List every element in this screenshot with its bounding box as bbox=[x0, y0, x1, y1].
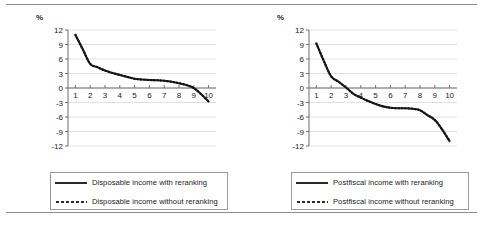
y-axis-unit-label-left: % bbox=[36, 14, 43, 22]
svg-text:3: 3 bbox=[59, 70, 64, 79]
svg-text:3: 3 bbox=[300, 70, 305, 79]
svg-text:5: 5 bbox=[373, 91, 378, 100]
svg-text:9: 9 bbox=[192, 91, 197, 100]
svg-text:7: 7 bbox=[162, 91, 167, 100]
svg-text:5: 5 bbox=[132, 91, 137, 100]
y-axis-unit-label-right: % bbox=[277, 14, 284, 22]
legend-swatch-dotted-icon bbox=[55, 197, 87, 207]
svg-text:6: 6 bbox=[300, 55, 305, 64]
legend-swatch-dotted-icon bbox=[296, 197, 328, 207]
svg-text:-12: -12 bbox=[292, 142, 304, 150]
svg-text:-6: -6 bbox=[56, 113, 64, 122]
legend-label: Disposable income with reranking bbox=[92, 178, 207, 187]
chart-panel-postfiscal-income: % 129630-3-6-9-1212345678910 Postfiscal … bbox=[247, 12, 483, 208]
legend-label: Postfiscal income with reranking bbox=[333, 178, 443, 187]
svg-text:9: 9 bbox=[300, 41, 305, 50]
svg-text:-12: -12 bbox=[51, 142, 63, 150]
line-chart-left: 129630-3-6-9-1212345678910 bbox=[48, 26, 224, 150]
legend-swatch-solid-icon bbox=[55, 178, 87, 188]
svg-text:8: 8 bbox=[418, 91, 423, 100]
svg-text:-3: -3 bbox=[297, 99, 305, 108]
svg-text:1: 1 bbox=[314, 91, 319, 100]
svg-text:8: 8 bbox=[177, 91, 182, 100]
svg-text:9: 9 bbox=[433, 91, 438, 100]
svg-text:4: 4 bbox=[118, 91, 123, 100]
legend-item: Postfiscal income without reranking bbox=[292, 192, 468, 211]
svg-text:-6: -6 bbox=[297, 113, 305, 122]
chart-panel-disposable-income: % 129630-3-6-9-1212345678910 Disposable … bbox=[6, 12, 242, 208]
svg-text:6: 6 bbox=[147, 91, 152, 100]
legend-label: Disposable income without reranking bbox=[92, 197, 218, 206]
top-horizontal-rule bbox=[6, 4, 477, 5]
plot-area-right: 129630-3-6-9-1212345678910 bbox=[289, 26, 465, 150]
svg-text:0: 0 bbox=[300, 84, 305, 93]
line-chart-right: 129630-3-6-9-1212345678910 bbox=[289, 26, 465, 150]
svg-text:2: 2 bbox=[329, 91, 334, 100]
svg-text:0: 0 bbox=[59, 84, 64, 93]
svg-text:-9: -9 bbox=[297, 128, 305, 137]
legend-swatch-solid-icon bbox=[296, 178, 328, 188]
legend-item: Postfiscal income with reranking bbox=[292, 173, 468, 192]
svg-text:6: 6 bbox=[59, 55, 64, 64]
svg-text:12: 12 bbox=[295, 26, 304, 35]
svg-text:3: 3 bbox=[103, 91, 108, 100]
legend-label: Postfiscal income without reranking bbox=[333, 197, 454, 206]
svg-text:-3: -3 bbox=[56, 99, 64, 108]
legend-item: Disposable income with reranking bbox=[51, 173, 227, 192]
svg-text:12: 12 bbox=[54, 26, 63, 35]
legend-item: Disposable income without reranking bbox=[51, 192, 227, 211]
svg-text:3: 3 bbox=[344, 91, 349, 100]
svg-text:7: 7 bbox=[403, 91, 408, 100]
legend-left: Disposable income with reranking Disposa… bbox=[50, 172, 228, 210]
plot-area-left: 129630-3-6-9-1212345678910 bbox=[48, 26, 224, 150]
svg-text:-9: -9 bbox=[56, 128, 64, 137]
svg-text:10: 10 bbox=[445, 91, 454, 100]
svg-text:1: 1 bbox=[73, 91, 78, 100]
svg-text:2: 2 bbox=[88, 91, 93, 100]
bottom-horizontal-rule bbox=[6, 212, 477, 213]
svg-text:6: 6 bbox=[388, 91, 393, 100]
svg-text:9: 9 bbox=[59, 41, 64, 50]
legend-right: Postfiscal income with reranking Postfis… bbox=[291, 172, 469, 210]
